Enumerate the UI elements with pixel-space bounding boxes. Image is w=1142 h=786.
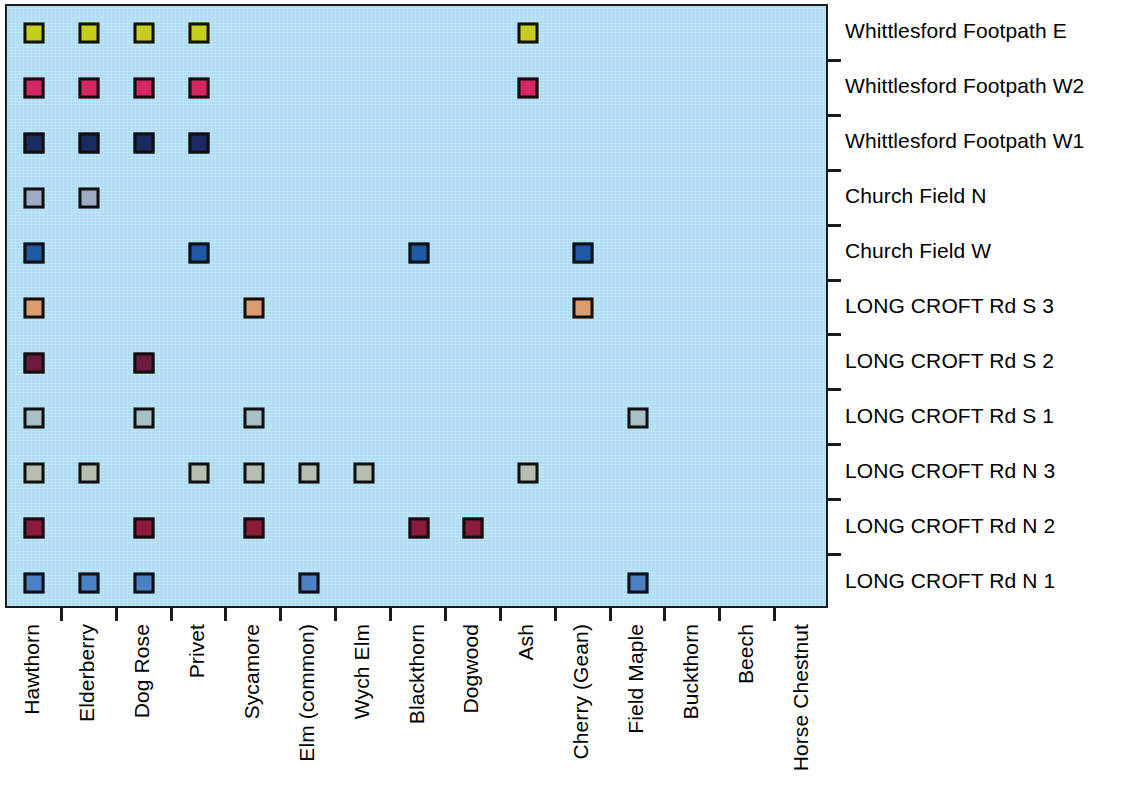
x-axis-tick — [609, 608, 612, 621]
y-axis-label: LONG CROFT Rd N 3 — [845, 459, 1055, 483]
x-axis-tick — [115, 608, 118, 621]
x-axis-label: Dogwood — [459, 624, 483, 713]
x-axis-tick — [444, 608, 447, 621]
x-axis-label: Blackthorn — [405, 624, 429, 724]
matrix-marker — [189, 243, 210, 264]
y-axis-tick — [828, 224, 841, 227]
matrix-marker — [573, 298, 594, 319]
x-axis-tick — [663, 608, 666, 621]
y-axis-tick — [828, 279, 841, 282]
x-axis-tick — [170, 608, 173, 621]
x-axis-label: Buckthorn — [679, 624, 703, 719]
matrix-marker — [134, 78, 155, 99]
y-axis-label: Whittlesford Footpath W2 — [845, 74, 1084, 98]
matrix-marker — [298, 572, 319, 593]
matrix-marker — [134, 517, 155, 538]
x-axis-label: Beech — [734, 624, 758, 684]
y-axis-label: Whittlesford Footpath W1 — [845, 129, 1084, 153]
matrix-marker — [627, 572, 648, 593]
matrix-marker — [518, 462, 539, 483]
matrix-marker — [134, 572, 155, 593]
y-axis-label: LONG CROFT Rd N 1 — [845, 569, 1055, 593]
x-axis-tick — [718, 608, 721, 621]
matrix-marker — [24, 188, 45, 209]
matrix-marker — [79, 133, 100, 154]
matrix-marker — [24, 407, 45, 428]
matrix-marker — [134, 133, 155, 154]
y-axis-label: Church Field W — [845, 239, 991, 263]
matrix-marker — [518, 78, 539, 99]
y-axis-label: Church Field N — [845, 184, 986, 208]
matrix-marker — [24, 517, 45, 538]
x-axis-label: Field Maple — [624, 624, 648, 734]
matrix-marker — [79, 23, 100, 44]
y-axis-label: LONG CROFT Rd S 3 — [845, 294, 1054, 318]
y-axis-tick — [828, 169, 841, 172]
x-axis-label: Wych Elm — [350, 624, 374, 719]
matrix-marker — [134, 352, 155, 373]
matrix-marker — [24, 23, 45, 44]
matrix-marker — [243, 298, 264, 319]
x-axis-label: Elderberry — [75, 624, 99, 722]
y-axis-label: LONG CROFT Rd S 1 — [845, 404, 1054, 428]
matrix-marker — [24, 78, 45, 99]
x-axis-label: Cherry (Gean) — [569, 624, 593, 760]
x-axis-tick — [334, 608, 337, 621]
x-axis-tick — [224, 608, 227, 621]
y-axis-tick — [828, 498, 841, 501]
y-axis-tick — [828, 333, 841, 336]
matrix-marker — [573, 243, 594, 264]
matrix-marker — [518, 23, 539, 44]
matrix-marker — [24, 462, 45, 483]
matrix-marker — [627, 407, 648, 428]
matrix-marker — [24, 352, 45, 373]
matrix-marker — [24, 243, 45, 264]
plot-area — [5, 4, 828, 608]
x-axis-label: Dog Rose — [130, 624, 154, 718]
matrix-marker — [134, 23, 155, 44]
matrix-marker — [298, 462, 319, 483]
y-axis-tick — [828, 443, 841, 446]
x-axis-tick — [773, 608, 776, 621]
y-axis-label: LONG CROFT Rd N 2 — [845, 514, 1055, 538]
x-axis-label: Sycamore — [240, 624, 264, 719]
matrix-marker — [243, 462, 264, 483]
y-axis-label: Whittlesford Footpath E — [845, 19, 1067, 43]
matrix-marker — [79, 462, 100, 483]
matrix-marker — [408, 243, 429, 264]
matrix-marker — [134, 407, 155, 428]
y-axis-tick — [828, 114, 841, 117]
x-axis-label: Horse Chestnut — [789, 624, 813, 771]
matrix-marker — [24, 298, 45, 319]
matrix-marker — [24, 133, 45, 154]
x-axis-tick — [60, 608, 63, 621]
y-axis-tick — [828, 59, 841, 62]
x-axis-tick — [499, 608, 502, 621]
matrix-marker — [353, 462, 374, 483]
x-axis-tick — [389, 608, 392, 621]
x-axis-label: Hawthorn — [20, 624, 44, 715]
matrix-marker — [189, 462, 210, 483]
matrix-marker — [189, 78, 210, 99]
x-axis-label: Privet — [185, 624, 209, 678]
matrix-marker — [408, 517, 429, 538]
matrix-marker — [189, 133, 210, 154]
y-axis-label: LONG CROFT Rd S 2 — [845, 349, 1054, 373]
x-axis-tick — [554, 608, 557, 621]
matrix-marker — [24, 572, 45, 593]
matrix-marker — [243, 517, 264, 538]
x-axis-label: Elm (common) — [295, 624, 319, 762]
x-axis-label: Ash — [514, 624, 538, 661]
x-axis-tick — [279, 608, 282, 621]
chart-root: Whittlesford Footpath EWhittlesford Foot… — [0, 0, 1142, 786]
y-axis-tick — [828, 388, 841, 391]
matrix-marker — [79, 78, 100, 99]
matrix-marker — [79, 188, 100, 209]
y-axis-tick — [828, 553, 841, 556]
matrix-marker — [463, 517, 484, 538]
matrix-marker — [243, 407, 264, 428]
matrix-marker — [79, 572, 100, 593]
matrix-marker — [189, 23, 210, 44]
